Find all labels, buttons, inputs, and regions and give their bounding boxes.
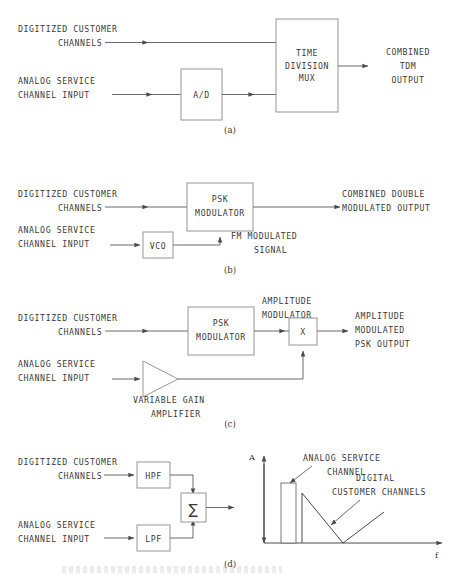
block-tdm-label-line-3: MUX: [299, 73, 316, 83]
spectrum-annotation-digital-leader: [331, 500, 360, 525]
block-ad-converter-label: A/D: [193, 90, 210, 100]
spectrum-x-axis-label: f: [435, 550, 439, 560]
block-tdm-label-line-2: DIVISION: [285, 61, 329, 71]
panel-a-output-line-3: OUTPUT: [391, 75, 424, 85]
block-vco-label: VCO: [150, 241, 167, 251]
panel-c-output-line-1: AMPLITUDE: [355, 311, 405, 321]
panel-a-output-line-1: COMBINED: [386, 47, 430, 57]
block-psk-label-line-2: MODULATOR: [195, 208, 245, 218]
figure-container: DIGITIZED CUSTOMER CHANNELS ANALOG SERVI…: [0, 0, 460, 574]
panel-b-caption: (b): [224, 265, 236, 275]
spectrum-annotation-digital-line-2: CUSTOMER CHANNELS: [332, 487, 426, 497]
panel-c-input-1-line-2: CHANNELS: [58, 327, 102, 337]
block-psk-label-line-1: PSK: [213, 318, 230, 328]
panel-c-vga-label-line-2: AMPLIFIER: [151, 409, 201, 419]
block-sum-label: ∑: [188, 501, 198, 517]
block-psk-label-line-2: MODULATOR: [196, 332, 246, 342]
panel-b-input-1-line-2: CHANNELS: [58, 203, 102, 213]
page-artifact-line: [62, 566, 282, 573]
panel-d-input-1-line-2: CHANNELS: [58, 471, 102, 481]
block-tdm-label-line-1: TIME: [296, 48, 318, 58]
panel-a-input-1-line-2: CHANNELS: [58, 38, 102, 48]
panel-c-input-2-line-2: CHANNEL INPUT: [18, 373, 90, 383]
panel-b-input-2-line-2: CHANNEL INPUT: [18, 239, 90, 249]
spectrum-analog-service-channel-bar: [281, 483, 296, 543]
spectrum-annotation-analog-leader: [290, 466, 312, 483]
panel-c-input-2-line-1: ANALOG SERVICE: [18, 359, 95, 369]
panel-b-wire-vco-to-psk: [173, 237, 220, 245]
panel-b-output-line-1: COMBINED DOUBLE: [342, 189, 425, 199]
panel-a-output-line-2: TDM: [400, 61, 417, 71]
panel-d: DIGITIZED CUSTOMER CHANNELS ANALOG SERVI…: [0, 433, 460, 574]
panel-c-vga-label-line-1: VARIABLE GAIN: [133, 395, 205, 405]
panel-b-output-line-2: MODULATED OUTPUT: [342, 203, 430, 213]
panel-d-wire-hpf-to-sum: [170, 475, 193, 494]
panel-c: AMPLITUDE MODULATOR DIGITIZED CUSTOMER C…: [0, 285, 460, 433]
spectrum-annotation-analog-line-1: ANALOG SERVICE: [303, 453, 380, 463]
spectrum-annotation-digital-line-1: DIGITAL: [356, 473, 395, 483]
panel-d-wire-lpf-to-sum: [170, 520, 193, 538]
panel-a-input-2-line-2: CHANNEL INPUT: [18, 90, 90, 100]
panel-a-caption: (a): [224, 125, 236, 135]
panel-b-input-1-line-1: DIGITIZED CUSTOMER: [18, 189, 118, 199]
panel-c-amplitude-modulator-line-1: AMPLITUDE: [262, 296, 312, 306]
panel-a: DIGITIZED CUSTOMER CHANNELS ANALOG SERVI…: [0, 0, 460, 140]
spectrum-y-axis-label: A: [248, 452, 255, 462]
panel-d-input-2-line-2: CHANNEL INPUT: [18, 534, 90, 544]
block-lpf-label: LPF: [145, 534, 162, 544]
panel-c-output-line-2: MODULATED: [355, 325, 405, 335]
panel-b: DIGITIZED CUSTOMER CHANNELS ANALOG SERVI…: [0, 145, 460, 285]
panel-c-input-1-line-1: DIGITIZED CUSTOMER: [18, 313, 118, 323]
panel-a-input-1-line-1: DIGITIZED CUSTOMER: [18, 24, 118, 34]
panel-b-input-2-line-1: ANALOG SERVICE: [18, 225, 95, 235]
block-hpf-label: HPF: [145, 471, 162, 481]
block-psk-label-line-1: PSK: [212, 194, 229, 204]
panel-a-input-2-line-1: ANALOG SERVICE: [18, 76, 95, 86]
panel-c-output-line-3: PSK OUTPUT: [355, 339, 410, 349]
spectrum-digital-customer-channels-curve: [302, 493, 384, 543]
panel-b-annotation-line-1: FM MODULATED: [231, 231, 297, 241]
block-variable-gain-amplifier: [143, 361, 178, 397]
panel-d-input-2-line-1: ANALOG SERVICE: [18, 520, 95, 530]
panel-c-caption: (c): [224, 419, 236, 429]
block-mixer-label: X: [300, 327, 306, 337]
panel-b-annotation-line-2: SIGNAL: [254, 245, 287, 255]
panel-d-input-1-line-1: DIGITIZED CUSTOMER: [18, 457, 118, 467]
